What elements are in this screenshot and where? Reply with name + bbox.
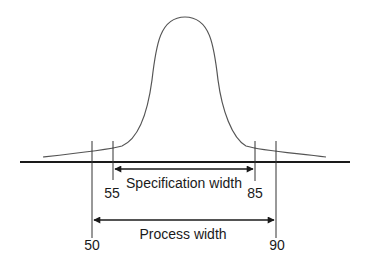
process-upper-value: 90 bbox=[269, 237, 285, 253]
spec-lower-value: 55 bbox=[104, 185, 120, 201]
process-capability-diagram: Specification width 55 85 Process width … bbox=[0, 0, 366, 261]
spec-upper-value: 85 bbox=[247, 185, 263, 201]
distribution-curve bbox=[43, 17, 326, 157]
specification-width-label: Specification width bbox=[126, 175, 242, 191]
process-width-label: Process width bbox=[139, 226, 226, 242]
process-lower-value: 50 bbox=[84, 237, 100, 253]
